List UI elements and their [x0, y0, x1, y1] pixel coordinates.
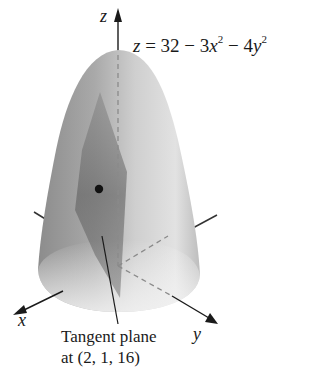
x-axis-label: x	[18, 310, 26, 331]
surface-equation: z = 32 − 3x2 − 4y2	[133, 35, 267, 57]
annotation-line-2: at (2, 1, 16)	[61, 348, 140, 368]
y-arrow-icon	[205, 313, 218, 324]
y-axis	[172, 296, 218, 324]
eq-x-var: x	[209, 35, 217, 56]
eq-x-exp: 2	[218, 33, 224, 45]
annotation-line-1: Tangent plane	[61, 327, 157, 347]
eq-y-exp: 2	[261, 33, 267, 45]
eq-minus: − 4	[223, 35, 253, 56]
eq-constant: = 32 − 3	[140, 35, 209, 56]
z-axis-label: z	[100, 6, 107, 27]
z-axis	[114, 8, 122, 52]
tangent-point-marker	[95, 185, 103, 193]
y-axis-label: y	[193, 324, 201, 345]
z-arrow-icon	[114, 8, 122, 22]
y-axis-back-stub	[191, 215, 217, 229]
